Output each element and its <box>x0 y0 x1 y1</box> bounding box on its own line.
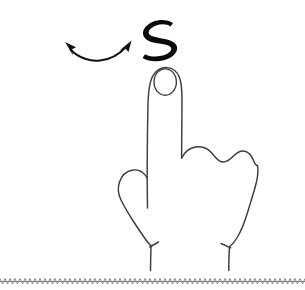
wrist-right <box>229 247 230 271</box>
gesture-canvas <box>0 0 305 290</box>
canvas-background <box>0 0 305 290</box>
wrist-left <box>151 246 152 271</box>
gesture-illustration: Hand gesture diagram: index finger exten… <box>0 0 305 290</box>
